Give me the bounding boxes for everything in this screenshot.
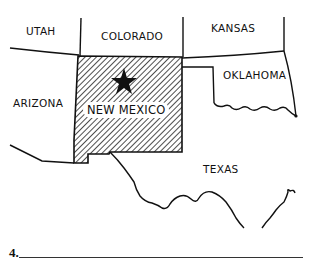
oklahoma-panhandle-border <box>182 67 214 103</box>
state-label-arizona: ARIZONA <box>13 97 63 109</box>
red-river-border <box>214 103 296 116</box>
border-point <box>294 114 297 117</box>
kansas-oklahoma-border <box>182 51 284 58</box>
utah-arizona-border <box>10 48 79 55</box>
state-label-texas: TEXAS <box>203 163 239 175</box>
state-label-kansas: KANSAS <box>211 22 255 34</box>
question-number: 4. <box>9 245 19 261</box>
state-label-colorado: COLORADO <box>101 30 163 42</box>
state-label-utah: UTAH <box>26 25 56 37</box>
oklahoma-east-border <box>284 51 296 116</box>
state-label-new-mexico: NEW MEXICO <box>83 102 169 118</box>
utah-colorado-border <box>80 18 81 56</box>
arizona-mexico-border <box>10 145 74 163</box>
answer-line[interactable] <box>19 257 303 258</box>
texas-coast <box>262 190 295 228</box>
state-label-oklahoma: OKLAHOMA <box>223 69 286 81</box>
